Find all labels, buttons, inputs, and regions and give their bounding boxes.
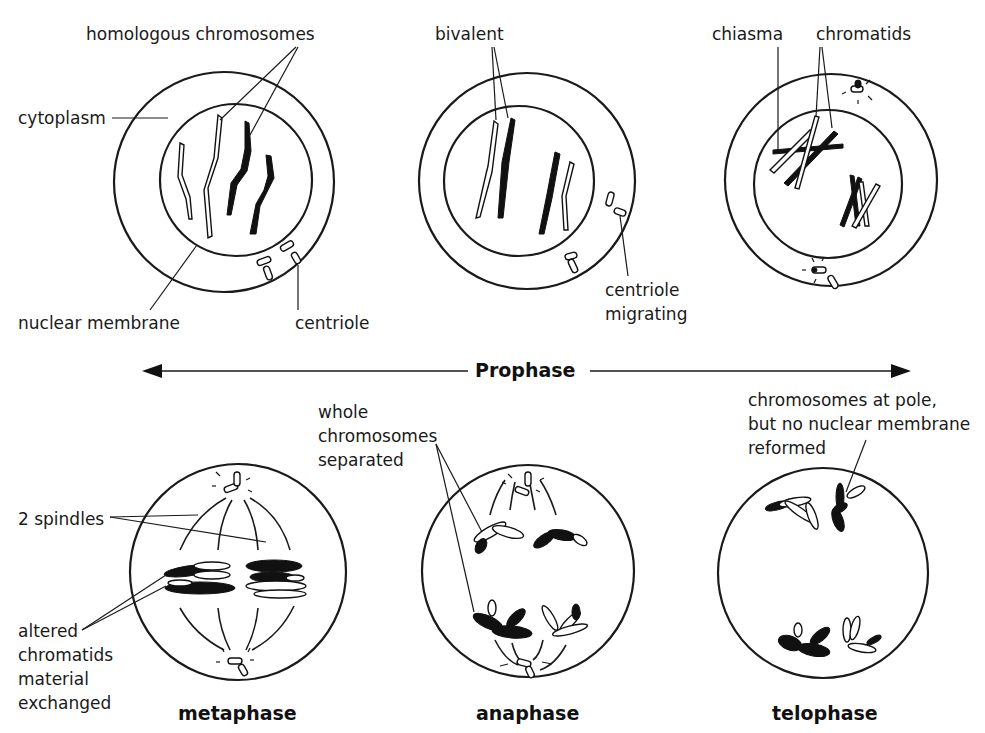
centriole-icon [502,472,544,496]
chromosome-light [562,162,574,230]
chromosome-light [194,571,230,579]
chromosome-dark [866,633,883,646]
chromosome-dark [250,155,274,234]
chromosome-dark [539,152,560,234]
centriole-icon [212,472,252,493]
centriole-icon [216,648,254,677]
arrow-right-icon [891,364,911,378]
label-chiasma: chiasma [712,24,783,44]
anaphase-cell: whole chromosomes separated anaphase [318,402,634,724]
label-altered-2: chromatids [18,645,113,665]
chromosome-dark [572,604,580,620]
chromosome-light [488,600,496,616]
chromosome-light [286,575,304,581]
centriole-icon [842,80,872,104]
label-nuclear-membrane: nuclear membrane [18,313,180,333]
label-cytoplasm: cytoplasm [18,108,106,128]
label-altered: altered [18,621,78,641]
anaphase-title: anaphase [476,702,579,724]
chromosome-light [491,523,524,541]
label-whole: whole [318,402,368,422]
label-pole-3: reformed [748,438,826,458]
label-centriole-migrating: centriole [605,280,680,300]
chromosome-dark [246,560,302,572]
label-homologous-chromosomes: homologous chromosomes [86,24,315,44]
label-chromatids: chromatids [816,24,911,44]
telophase-title: telophase [772,702,878,724]
cell-membrane [725,74,937,286]
chromosome-light [476,121,498,218]
chromosome-light [254,590,306,598]
prophase-arrow: Prophase [142,359,911,381]
telophase-cell: chromosomes at pole, but no nuclear memb… [718,390,970,724]
chromosome-dark [227,121,251,215]
label-whole-2: chromosomes [318,426,437,446]
label-altered-4: exchanged [18,693,111,713]
chromosome-light [540,604,561,632]
nuclear-membrane [444,106,594,256]
chromosome-light [794,623,802,637]
chromosome-dark [808,624,833,647]
chromosome-light [571,532,589,548]
meiosis-diagram: homologous chromosomes cytoplasm nuclear… [0,0,985,733]
mid-prophase-cell: bivalent centriole migrating [419,24,687,324]
chromosome-dark [498,118,515,218]
early-prophase-cell: homologous chromosomes cytoplasm nuclear… [18,24,370,333]
nuclear-membrane [754,110,902,258]
late-prophase-cell: chiasma chromatids [712,24,937,290]
metaphase-title: metaphase [178,702,297,724]
prophase-label: Prophase [475,359,576,381]
centriole-icon [256,240,301,281]
chromosome-light [204,115,222,238]
label-bivalent: bivalent [435,24,504,44]
chromosome-light [168,580,192,586]
label-centriole: centriole [295,313,370,333]
metaphase-cell: 2 spindles altered chromatids material e… [18,464,346,724]
cell-membrane [422,465,634,677]
label-2-spindles: 2 spindles [18,509,104,529]
label-whole-3: separated [318,450,404,470]
label-altered-3: material [18,669,89,689]
chromosome-light [178,143,192,219]
label-pole: chromosomes at pole, [748,390,937,410]
arrow-left-icon [142,364,162,378]
label-centriole-migrating-2: migrating [605,304,687,324]
chromosome-light [194,562,230,570]
spindle-fibres [490,480,566,670]
label-pole-2: but no nuclear membrane [748,414,970,434]
cell-membrane [130,464,346,680]
